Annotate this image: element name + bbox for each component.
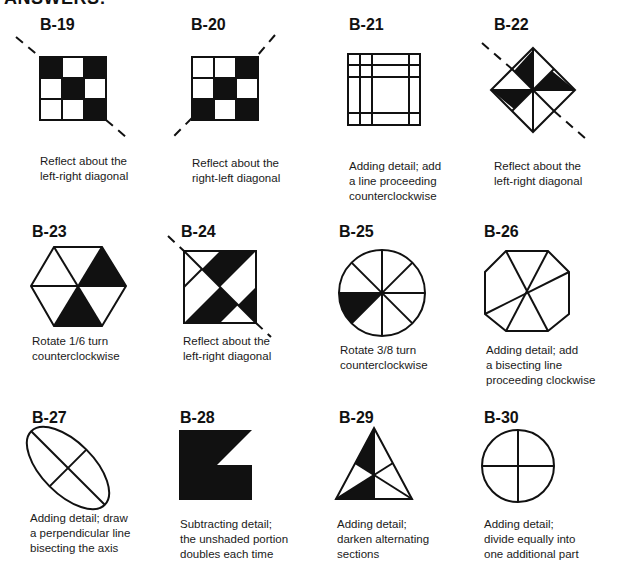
grid-lines-figure-icon <box>347 53 422 128</box>
triangle-sections-figure-icon <box>335 427 415 502</box>
answer-label: B-22 <box>494 16 529 34</box>
answer-label: B-27 <box>32 409 67 427</box>
circle-sectors-figure-icon <box>338 249 428 339</box>
answer-caption: Adding detail; adda bisecting lineprocee… <box>486 343 595 388</box>
answer-caption: Adding detail;divide equally intoone add… <box>484 517 579 562</box>
answer-caption: Rotate 1/6 turncounterclockwise <box>32 334 120 364</box>
triangles-square-figure-icon <box>166 236 276 341</box>
ellipse-figure-icon <box>26 428 111 508</box>
answer-caption: Reflect about theleft-right diagonal <box>40 154 128 184</box>
answer-caption: Adding detail; adda line proceedingcount… <box>349 159 441 204</box>
answer-label: B-30 <box>484 409 519 427</box>
answer-caption: Reflect about theleft-right diagonal <box>494 159 582 189</box>
octagon-figure-icon <box>484 250 574 335</box>
quartered-circle-figure-icon <box>481 429 557 505</box>
answer-label: B-25 <box>339 223 374 241</box>
answer-label: B-26 <box>484 223 519 241</box>
answer-label: B-28 <box>180 409 215 427</box>
answers-header: ANSWERS: <box>4 0 106 9</box>
answer-label: B-19 <box>40 16 75 34</box>
answer-label: B-23 <box>32 223 67 241</box>
answer-caption: Adding detail; drawa perpendicular lineb… <box>30 511 130 556</box>
diamond-figure-icon <box>480 38 590 143</box>
answer-caption: Reflect about theright-left diagonal <box>192 156 280 186</box>
answer-caption: Subtracting detail;the unshaded portiond… <box>180 517 288 562</box>
answer-label: B-29 <box>339 409 374 427</box>
checkerboard-figure-icon <box>14 35 134 145</box>
answer-caption: Adding detail;darken alternatingsections <box>337 517 429 562</box>
answer-caption: Rotate 3/8 turncounterclockwise <box>340 343 428 373</box>
hexagon-figure-icon <box>30 246 130 331</box>
shaded-square-figure-icon <box>179 430 254 502</box>
checkerboard-figure-icon <box>165 30 285 145</box>
answer-label: B-21 <box>349 16 384 34</box>
answer-caption: Reflect about theleft-right diagonal <box>183 334 271 364</box>
